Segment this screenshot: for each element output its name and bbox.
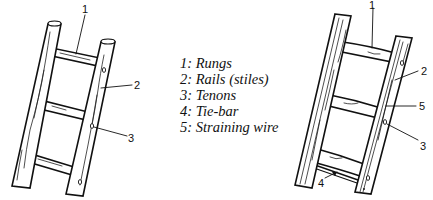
right-ladder-tenon-1 (400, 61, 403, 66)
callout-number: 3 (420, 140, 426, 152)
left-ladder-tenon-1 (102, 68, 105, 73)
left-ladder-callout-3: 3 (94, 127, 134, 144)
left-ladder: 1 2 3 (12, 3, 140, 196)
legend-item-rungs: 1: Rungs (180, 55, 279, 71)
callout-number: 5 (419, 100, 425, 112)
left-ladder-tenon-3 (78, 180, 81, 185)
right-ladder: 1 2 5 3 4 (295, 0, 427, 194)
callout-number: 1 (369, 0, 375, 11)
legend-item-tenons: 3: Tenons (180, 87, 279, 103)
left-ladder-tenon-2 (90, 124, 93, 129)
callout-number: 2 (134, 79, 140, 91)
callout-number: 1 (82, 3, 88, 15)
right-ladder-rung-top (338, 42, 395, 62)
left-ladder-callout-1: 1 (76, 3, 88, 54)
legend-item-rails: 2: Rails (stiles) (180, 71, 279, 87)
callout-number: 3 (128, 132, 134, 144)
callout-number: 2 (421, 65, 427, 77)
right-ladder-rung-middle (325, 95, 381, 118)
legend-item-straining-wire: 5: Straining wire (180, 119, 279, 135)
legend-item-tie-bar: 4: Tie-bar (180, 103, 279, 119)
right-ladder-callout-1: 1 (369, 0, 375, 48)
right-ladder-tenon-2 (383, 120, 386, 125)
left-ladder-rung-top (50, 48, 101, 66)
callout-number: 4 (318, 177, 324, 189)
legend: 1: Rungs 2: Rails (stiles) 3: Tenons 4: … (180, 55, 279, 135)
right-ladder-tenon-3 (366, 176, 369, 181)
right-ladder-callout-3: 3 (387, 124, 426, 152)
right-ladder-callout-4: 4 (318, 172, 337, 189)
